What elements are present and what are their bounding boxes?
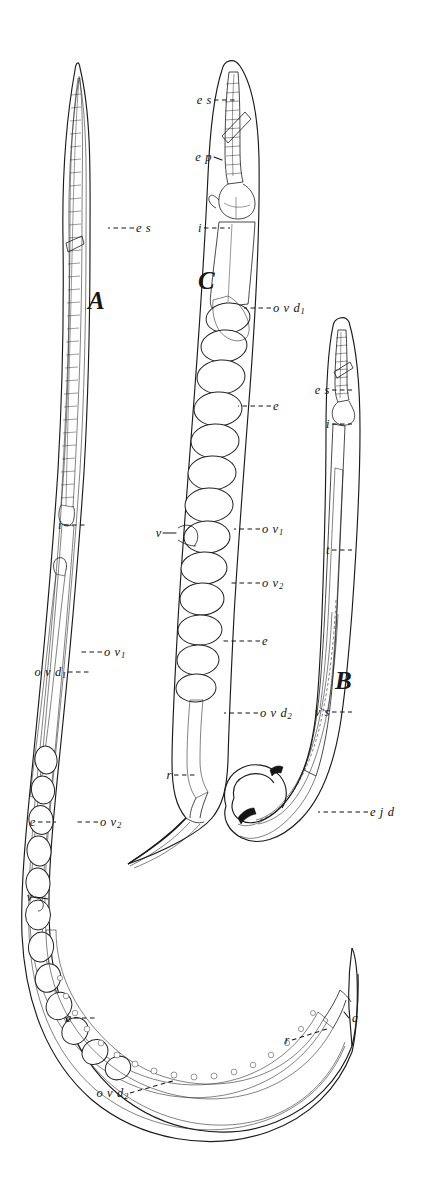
label-e-c2: e <box>262 635 268 648</box>
label-ov1-a: o v1 <box>104 646 125 659</box>
label-es-c: e s <box>197 94 212 107</box>
figure-a-eggs <box>25 745 135 1085</box>
label-v-c: v <box>156 527 162 540</box>
label-ov2-c: o v2 <box>262 577 283 590</box>
figure-letter-b: B <box>335 668 352 693</box>
label-r-a: r <box>285 1034 290 1047</box>
label-ov2-a: o v2 <box>100 816 121 829</box>
label-ov1-c: o v1 <box>262 523 283 536</box>
label-i-a: i <box>58 519 62 532</box>
label-ovd1-c: o v d1 <box>273 302 305 315</box>
label-v-a: v <box>27 891 33 904</box>
label-e-a1: e <box>30 816 36 829</box>
label-es-a: e s <box>136 222 151 235</box>
label-es-b: e s <box>315 384 330 397</box>
label-t-b: t <box>326 544 330 557</box>
label-ovd2-a: o v d2 <box>96 1087 128 1100</box>
figure-b-drawing <box>225 318 361 842</box>
label-e-a2: e <box>66 1012 72 1025</box>
label-r-c: r <box>167 769 172 782</box>
label-i-b: i <box>326 418 330 431</box>
label-a-a: a <box>352 1012 359 1025</box>
nematode-plate-svg <box>0 0 441 1180</box>
label-vs-b: v s <box>315 706 330 719</box>
label-ep-c: e p <box>195 151 212 164</box>
figure-c-eggs <box>176 301 252 703</box>
figure-letter-c: C <box>198 268 215 293</box>
illustration-plate: A C B e s <box>0 0 441 1180</box>
label-ejd-b: e j d <box>370 806 395 819</box>
label-ovd2-c: o v d2 <box>260 707 292 720</box>
label-ovd1-a: o v d1 <box>34 666 66 679</box>
label-e-c1: e <box>273 400 279 413</box>
figure-letter-a: A <box>88 288 105 313</box>
figure-c-drawing <box>128 61 259 868</box>
label-i-c: i <box>198 222 202 235</box>
